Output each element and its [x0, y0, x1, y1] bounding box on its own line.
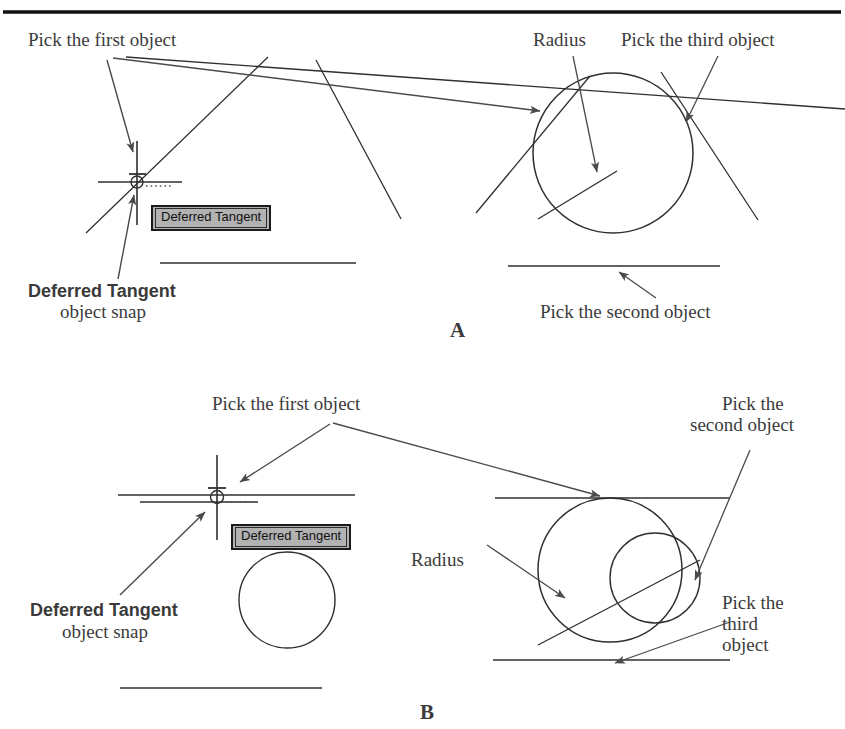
leader-osnap-b: [120, 512, 205, 595]
label-osnap-name-b: Deferred Tangent: [30, 600, 178, 621]
panel-letter-b: B: [420, 700, 434, 725]
label-pick-second-b-line1: Pick the: [722, 393, 784, 415]
leader-pick-first-a: [107, 60, 133, 152]
leader-pick-second-b: [695, 450, 750, 580]
label-pick-second-b-line2: second object: [690, 414, 794, 436]
label-osnap-kind-b: object snap: [62, 621, 148, 643]
tooltip-deferred-tangent-b: Deferred Tangent: [231, 524, 351, 550]
panel-a-leaders: [107, 56, 718, 298]
leader-pick-first-a2: [113, 58, 540, 111]
small-circle-left-b: [239, 552, 335, 648]
label-radius-b: Radius: [411, 549, 464, 571]
tooltip-deferred-tangent-b-text: Deferred Tangent: [235, 527, 347, 547]
leader-pick-third-b: [615, 622, 730, 663]
tooltip-deferred-tangent-a: Deferred Tangent: [151, 205, 271, 231]
tangent-line-upper-long: [126, 57, 845, 109]
label-osnap-name-a: Deferred Tangent: [28, 281, 176, 302]
label-pick-third-a: Pick the third object: [621, 29, 775, 51]
circle-tangent-upper-right: [661, 72, 758, 220]
panel-a-geometry: [86, 57, 845, 266]
label-pick-third-b-line3: object: [722, 634, 768, 656]
leader-radius-b: [487, 545, 565, 598]
radius-vector-a: [538, 171, 617, 219]
label-pick-third-b-line1: Pick the: [722, 592, 784, 614]
leader-pick-third-a: [686, 56, 718, 122]
label-pick-first-b: Pick the first object: [212, 393, 360, 415]
tooltip-deferred-tangent-a-text: Deferred Tangent: [155, 208, 267, 228]
label-osnap-kind-a: object snap: [60, 301, 146, 323]
label-radius-a: Radius: [533, 29, 586, 51]
leader-pick-second-a: [619, 272, 656, 298]
radius-vector-b: [538, 560, 700, 645]
circle-tangent-upper-left: [476, 76, 590, 213]
label-pick-first-a: Pick the first object: [28, 29, 176, 51]
small-circle-right-b: [610, 533, 700, 623]
label-pick-second-a: Pick the second object: [540, 301, 710, 323]
leader-pick-first-b3: [420, 440, 845, 470]
tangent-line-mid-slant: [316, 60, 401, 219]
big-circle-b: [538, 498, 682, 642]
leader-pick-first-b2: [333, 423, 600, 496]
figure-page: Pick the first object Radius Pick the th…: [0, 0, 845, 729]
leader-radius-a: [573, 56, 597, 172]
leader-osnap-a: [118, 195, 134, 279]
leader-pick-first-b: [240, 424, 330, 482]
panel-letter-a: A: [450, 318, 465, 343]
label-pick-third-b-line2: third: [722, 613, 758, 635]
tangent-circle-a: [533, 73, 693, 233]
panel-b-geometry: [118, 455, 730, 688]
